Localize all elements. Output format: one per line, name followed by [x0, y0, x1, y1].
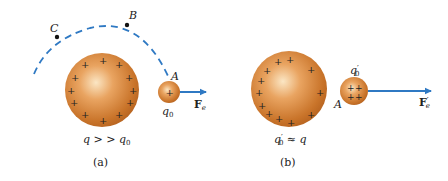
svg-text:+: + — [275, 113, 283, 124]
charge-relation-label-b: q′0 ≈ q — [274, 132, 307, 147]
svg-text:+: + — [287, 117, 295, 128]
svg-text:+: + — [99, 115, 107, 126]
panel-a: C B A + + + + + + + + + + + + + Fe q0 — [34, 9, 206, 169]
point-a-label-b: A — [333, 98, 342, 111]
svg-text:+: + — [255, 87, 263, 98]
svg-text:+: + — [70, 97, 78, 108]
caption-b: (b) — [280, 156, 296, 169]
svg-text:+: + — [347, 92, 355, 102]
caption-a: (a) — [93, 156, 108, 169]
svg-text:+: + — [307, 109, 315, 120]
svg-text:+: + — [81, 109, 89, 120]
svg-text:+: + — [99, 55, 107, 66]
point-b-dot — [125, 23, 129, 27]
point-c-label: C — [50, 22, 59, 35]
svg-text:+: + — [67, 85, 75, 96]
charge-relation-label: q > > q0 — [83, 133, 131, 147]
svg-text:+: + — [307, 64, 315, 75]
point-b-label: B — [128, 9, 137, 22]
point-c-dot — [55, 35, 59, 39]
force-label: Fe — [194, 98, 206, 112]
electric-potential-diagram: C B A + + + + + + + + + + + + + Fe q0 — [0, 0, 448, 181]
svg-text:+: + — [257, 75, 265, 86]
svg-text:+: + — [129, 85, 137, 96]
svg-text:+: + — [316, 87, 324, 98]
force-label-b: F′e — [419, 95, 430, 110]
panel-b: + + + + + + + + + + + + + + + + q′0 A — [251, 51, 431, 169]
svg-text:+: + — [126, 97, 134, 108]
test-charges-b: + + + + — [347, 83, 363, 102]
test-charge-label: q0 — [162, 105, 174, 119]
svg-text:+: + — [81, 59, 89, 70]
test-charge-label-b: q′0 — [350, 63, 359, 78]
svg-text:+: + — [355, 92, 363, 102]
svg-text:+: + — [115, 59, 123, 70]
point-a-label: A — [170, 70, 179, 83]
svg-text:+: + — [125, 72, 133, 83]
svg-text:+: + — [265, 108, 273, 119]
svg-text:+: + — [71, 72, 79, 83]
test-charge-sign: + — [166, 87, 174, 98]
svg-text:+: + — [274, 56, 282, 67]
svg-text:+: + — [286, 54, 294, 65]
svg-text:+: + — [115, 109, 123, 120]
